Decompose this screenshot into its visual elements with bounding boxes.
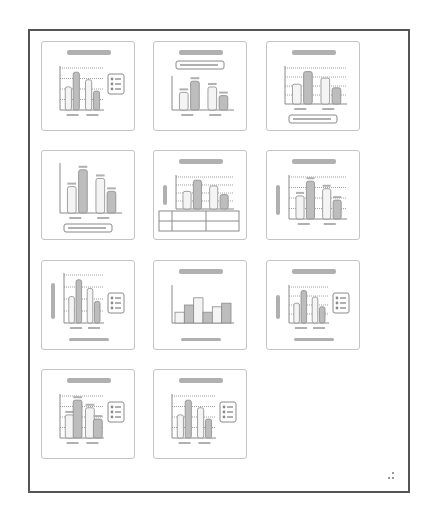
- chart-layout-preview-icon: [267, 261, 361, 351]
- chart-layout-option-1[interactable]: [41, 41, 135, 131]
- chart-layout-option-4[interactable]: [41, 150, 135, 240]
- chart-layout-preview-icon: [42, 42, 136, 132]
- chart-layout-option-9[interactable]: [266, 260, 360, 350]
- resize-grip-icon[interactable]: [384, 470, 398, 484]
- chart-layout-preview-icon: [42, 261, 136, 351]
- chart-layout-preview-icon: [154, 370, 248, 460]
- chart-layout-option-5[interactable]: [153, 150, 247, 240]
- chart-layout-preview-icon: [154, 261, 248, 351]
- chart-layout-option-6[interactable]: [266, 150, 360, 240]
- chart-layout-option-7[interactable]: [41, 260, 135, 350]
- chart-layout-option-10[interactable]: [41, 369, 135, 459]
- chart-layout-preview-icon: [154, 42, 248, 132]
- chart-layout-option-3[interactable]: [266, 41, 360, 131]
- chart-layout-preview-icon: [42, 370, 136, 460]
- chart-layout-preview-icon: [42, 151, 136, 241]
- chart-layout-preview-icon: [267, 151, 361, 241]
- chart-layout-option-2[interactable]: [153, 41, 247, 131]
- chart-layout-preview-icon: [154, 151, 248, 241]
- chart-layout-option-11[interactable]: [153, 369, 247, 459]
- chart-layout-option-8[interactable]: [153, 260, 247, 350]
- chart-layout-preview-icon: [267, 42, 361, 132]
